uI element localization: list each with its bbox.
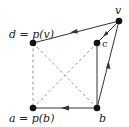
- arrowhead-b-a-icon: [61, 106, 69, 111]
- node-c: [94, 40, 101, 47]
- node-a: [30, 105, 37, 112]
- label-b: b: [99, 112, 106, 125]
- graph-diagram: v d = p(v) c a = p(b) b: [0, 0, 129, 127]
- node-v: [116, 18, 123, 25]
- node-b: [94, 105, 101, 112]
- arrowhead-b-v-icon: [106, 61, 111, 69]
- label-v: v: [115, 4, 122, 17]
- label-a: a = p(b): [9, 112, 54, 125]
- label-d: d = p(v): [9, 28, 54, 41]
- label-c: c: [102, 38, 108, 49]
